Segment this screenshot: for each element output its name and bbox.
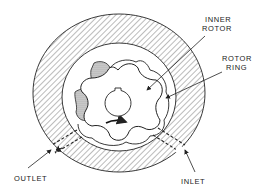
outlet-label: OUTLET <box>14 174 47 183</box>
rotor-ring-label-line2: RING <box>226 63 247 72</box>
inner-rotor-label-line2: ROTOR <box>202 24 232 33</box>
inlet-leader <box>185 150 195 172</box>
rotor-ring-label-line1: ROTOR <box>222 54 252 63</box>
gerotor-pump-diagram: INNER ROTOR ROTOR RING OUTLET INLET <box>0 0 265 193</box>
inlet-label: INLET <box>181 177 205 186</box>
outlet-leader <box>28 150 51 168</box>
inner-rotor-label-line1: INNER <box>205 15 231 24</box>
